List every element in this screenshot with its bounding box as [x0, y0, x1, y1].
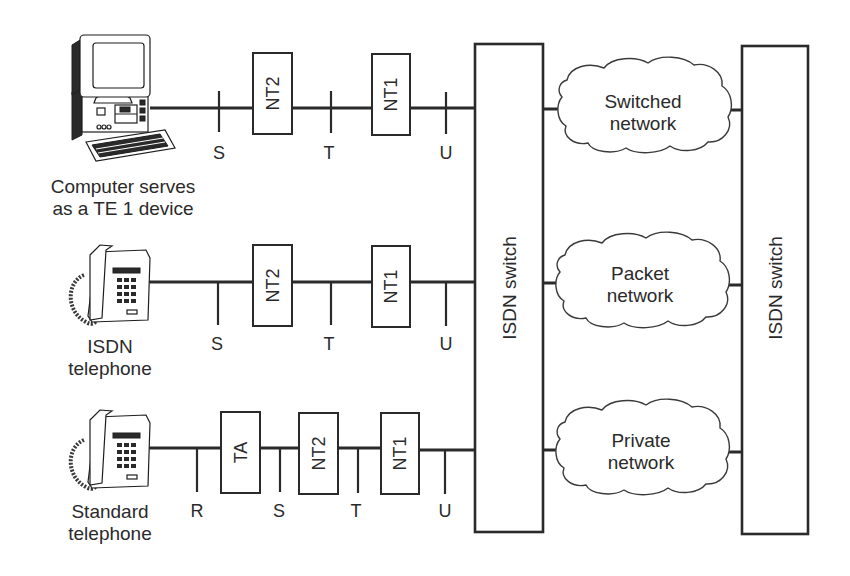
- ta-box: TA: [221, 412, 260, 493]
- device-label: as a TE 1 device: [52, 198, 193, 219]
- ref-label-s: S: [211, 334, 223, 354]
- ref-label-r: R: [191, 501, 204, 521]
- nt2-box: NT2: [253, 245, 292, 326]
- nt1-box: NT1: [381, 413, 419, 494]
- ref-label-t: T: [351, 501, 362, 521]
- svg-text:NT2: NT2: [309, 436, 329, 470]
- standard-telephone-icon: [71, 410, 150, 489]
- nt2-box: NT2: [299, 413, 338, 494]
- svg-text:NT2: NT2: [263, 268, 283, 302]
- isdn-switch-right: ISDN switch: [742, 46, 808, 534]
- device-label: telephone: [68, 358, 151, 379]
- ref-label-u: U: [440, 334, 453, 354]
- isdn-diagram: ISDN switch ISDN switch NT2 NT1 S T U: [0, 0, 850, 576]
- isdn-switch-left: ISDN switch: [475, 44, 543, 532]
- svg-text:NT1: NT1: [381, 77, 401, 111]
- device-label: Computer serves: [51, 176, 196, 197]
- svg-text:NT1: NT1: [390, 436, 410, 470]
- isdn-telephone-icon: [71, 245, 150, 324]
- ref-label-s: S: [273, 501, 285, 521]
- ref-label-u: U: [439, 501, 452, 521]
- network-label: network: [610, 113, 677, 134]
- network-label: Packet: [611, 263, 670, 284]
- ref-label-u: U: [440, 143, 453, 163]
- svg-text:NT2: NT2: [263, 76, 283, 110]
- nt1-box: NT1: [372, 54, 410, 135]
- row-computer: NT2 NT1 S T U: [51, 35, 742, 219]
- ref-label-t: T: [324, 334, 335, 354]
- svg-text:NT1: NT1: [381, 269, 401, 303]
- svg-text:TA: TA: [231, 442, 251, 464]
- row-isdn-telephone: NT2 NT1 S T U ISDN telephone: [68, 232, 742, 379]
- row-standard-telephone: TA NT2 NT1 R S T U Standard: [68, 399, 742, 544]
- device-label: telephone: [68, 523, 151, 544]
- nt2-box: NT2: [253, 53, 292, 134]
- computer-icon: [72, 35, 175, 161]
- device-label: Standard: [71, 501, 148, 522]
- network-label: Switched: [604, 91, 681, 112]
- ref-label-s: S: [213, 143, 225, 163]
- device-label: ISDN: [87, 336, 132, 357]
- network-label: Private: [611, 430, 670, 451]
- network-label: network: [608, 452, 675, 473]
- isdn-switch-left-label: ISDN switch: [499, 236, 520, 339]
- ref-label-t: T: [324, 143, 335, 163]
- isdn-switch-right-label: ISDN switch: [765, 236, 786, 339]
- nt1-box: NT1: [372, 246, 410, 327]
- network-label: network: [607, 285, 674, 306]
